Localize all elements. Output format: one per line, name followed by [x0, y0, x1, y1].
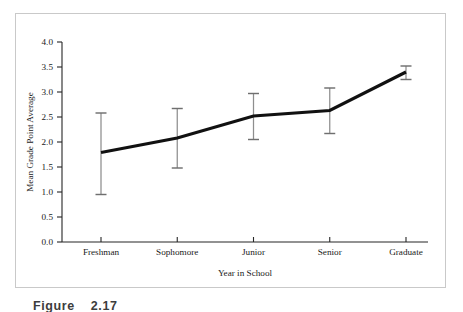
plot-area: 0.00.51.01.52.02.53.03.54.0 FreshmanSoph… [16, 14, 447, 289]
x-tick-label: Junior [242, 247, 265, 257]
figure-frame: 0.00.51.01.52.02.53.03.54.0 FreshmanSoph… [15, 13, 446, 288]
figure-root: 0.00.51.01.52.02.53.03.54.0 FreshmanSoph… [0, 0, 463, 312]
x-tick-label: Sophomore [156, 247, 198, 257]
figure-caption-label: Figure [33, 299, 75, 312]
x-axis [62, 237, 428, 242]
y-tick-label: 1.5 [42, 162, 54, 172]
x-tick-labels: FreshmanSophomoreJuniorSeniorGraduate [83, 247, 423, 257]
y-tick-label: 0.0 [42, 237, 54, 247]
y-tick-label: 3.0 [42, 87, 54, 97]
x-tick-label: Freshman [83, 247, 120, 257]
y-tick-label: 2.5 [42, 112, 54, 122]
error-bars [96, 66, 412, 195]
figure-caption: Figure2.17 [33, 299, 118, 312]
x-tick-label: Senior [318, 247, 342, 257]
y-tick-label: 3.5 [42, 62, 54, 72]
x-tick-label: Graduate [389, 247, 423, 257]
chart-canvas: 0.00.51.01.52.02.53.03.54.0 FreshmanSoph… [16, 14, 447, 289]
y-axis-title: Mean Grade Point Average [25, 92, 35, 192]
y-axis [57, 42, 62, 242]
y-tick-label: 4.0 [42, 37, 54, 47]
y-tick-label: 1.0 [42, 187, 54, 197]
x-axis-title: Year in School [218, 268, 273, 278]
y-tick-label: 2.0 [42, 137, 54, 147]
figure-caption-number: 2.17 [91, 299, 118, 312]
y-tick-labels: 0.00.51.01.52.02.53.03.54.0 [42, 37, 54, 247]
error-bar [96, 113, 107, 195]
y-tick-label: 0.5 [42, 212, 54, 222]
